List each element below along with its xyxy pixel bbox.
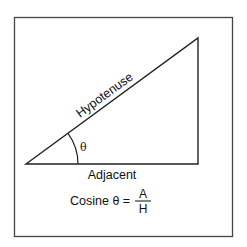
formula-numerator: A bbox=[139, 187, 147, 201]
diagram-canvas: θ Hypotenuse Adjacent Cosine θ = A H bbox=[0, 0, 247, 247]
angle-theta-label: θ bbox=[80, 141, 87, 154]
formula-denominator: H bbox=[139, 202, 148, 216]
angle-arc bbox=[68, 133, 78, 164]
right-triangle bbox=[26, 38, 198, 164]
hypotenuse-label: Hypotenuse bbox=[74, 70, 136, 121]
formula-lhs: Cosine θ = bbox=[70, 194, 130, 208]
adjacent-label: Adjacent bbox=[88, 168, 137, 182]
